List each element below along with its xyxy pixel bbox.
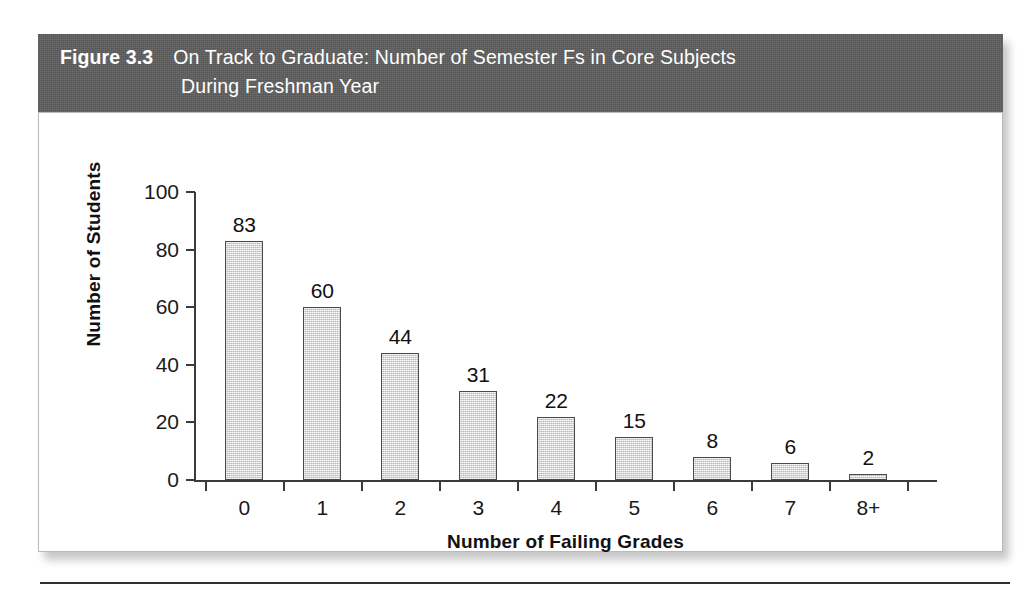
x-axis-tick xyxy=(361,482,363,491)
bar xyxy=(225,241,263,480)
chart-panel: Number of Students 020406080100 01234567… xyxy=(38,112,1003,552)
bar-value-label: 60 xyxy=(292,280,352,301)
figure-title-line-1: On Track to Graduate: Number of Semester… xyxy=(173,46,736,68)
x-axis-tick xyxy=(595,482,597,491)
bar xyxy=(771,463,809,480)
y-axis-tick xyxy=(186,249,195,251)
bar xyxy=(693,457,731,480)
y-axis-tick xyxy=(186,479,195,481)
x-axis-tick-label: 7 xyxy=(760,497,820,518)
x-axis-tick xyxy=(829,482,831,491)
x-axis-tick xyxy=(673,482,675,491)
y-axis-title: Number of Students xyxy=(83,144,105,364)
bar-chart: Number of Students 020406080100 01234567… xyxy=(39,113,1002,551)
y-axis-line xyxy=(194,192,196,482)
x-axis-tick xyxy=(439,482,441,491)
y-axis-tick-label: 0 xyxy=(109,469,179,490)
bar-value-label: 6 xyxy=(760,436,820,457)
page-footer-rule xyxy=(40,582,1010,584)
figure-number-label: Figure 3.3 xyxy=(60,46,153,68)
x-axis-line xyxy=(194,480,937,482)
x-axis-tick xyxy=(751,482,753,491)
y-axis-tick-label: 40 xyxy=(109,354,179,375)
figure-caption-line-1: Figure 3.3On Track to Graduate: Number o… xyxy=(60,43,989,72)
bar-value-label: 83 xyxy=(214,214,274,235)
bar xyxy=(537,417,575,480)
y-axis-tick xyxy=(186,421,195,423)
x-axis-tick xyxy=(205,482,207,491)
x-axis-tick xyxy=(517,482,519,491)
bar xyxy=(849,474,887,480)
bar-value-label: 15 xyxy=(604,410,664,431)
y-axis-tick xyxy=(186,364,195,366)
x-axis-tick-label: 3 xyxy=(448,497,508,518)
x-axis-tick xyxy=(907,482,909,491)
y-axis-tick-label: 60 xyxy=(109,296,179,317)
x-axis-tick-label: 2 xyxy=(370,497,430,518)
y-axis-tick xyxy=(186,306,195,308)
bar xyxy=(459,391,497,480)
bar xyxy=(381,353,419,480)
bar-value-label: 22 xyxy=(526,390,586,411)
figure-caption-band: Figure 3.3On Track to Graduate: Number o… xyxy=(38,34,1003,112)
figure-caption-text: Figure 3.3On Track to Graduate: Number o… xyxy=(60,43,989,101)
bar-value-label: 31 xyxy=(448,364,508,385)
y-axis-tick xyxy=(186,191,195,193)
x-axis-tick-label: 4 xyxy=(526,497,586,518)
bar-value-label: 2 xyxy=(838,447,898,468)
x-axis-tick-label: 6 xyxy=(682,497,742,518)
x-axis-tick-label: 5 xyxy=(604,497,664,518)
x-axis-title: Number of Failing Grades xyxy=(194,531,937,553)
figure-container: Figure 3.3On Track to Graduate: Number o… xyxy=(38,34,1003,552)
bar-value-label: 8 xyxy=(682,430,742,451)
y-axis-tick-label: 80 xyxy=(109,239,179,260)
bar xyxy=(303,307,341,480)
figure-title-line-2: During Freshman Year xyxy=(60,72,989,101)
bar-value-label: 44 xyxy=(370,326,430,347)
y-axis-tick-label: 100 xyxy=(109,181,179,202)
x-axis-tick-label: 0 xyxy=(214,497,274,518)
x-axis-tick xyxy=(283,482,285,491)
y-axis-tick-label: 20 xyxy=(109,411,179,432)
bar xyxy=(615,437,653,480)
x-axis-tick-label: 1 xyxy=(292,497,352,518)
x-axis-tick-label: 8+ xyxy=(838,497,898,518)
